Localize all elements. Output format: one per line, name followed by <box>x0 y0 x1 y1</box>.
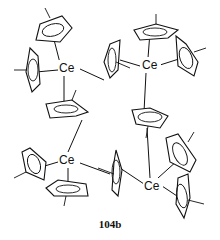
ce-atom-3: Ce <box>59 153 75 167</box>
cp-ring-bridge-bottom <box>98 150 122 196</box>
cp-ring-ce1-left <box>14 48 40 92</box>
ce-atom-2: Ce <box>142 58 158 72</box>
cp-ring-ce2-right <box>176 36 206 76</box>
cp-ring-ce3-bottom <box>46 180 88 206</box>
structure-diagram: Ce Ce Ce Ce <box>0 0 220 240</box>
cp-rings <box>14 8 206 218</box>
cp-ring-ce1-top <box>36 8 72 42</box>
cp-ring-ce1-bottom <box>46 90 88 118</box>
cp-ring-ce2-bottom <box>132 108 168 138</box>
compound-label: 104b <box>0 218 220 230</box>
ce-atom-1: Ce <box>59 61 75 75</box>
cp-ring-ce3-left <box>14 148 46 180</box>
cp-ring-ce4-lower-right <box>175 174 204 218</box>
cp-ring-ce4-upper-right <box>166 132 196 172</box>
cp-ring-bridge-top <box>104 40 130 78</box>
cp-ring-ce2-top <box>134 14 178 40</box>
ce-atom-4: Ce <box>144 179 160 193</box>
